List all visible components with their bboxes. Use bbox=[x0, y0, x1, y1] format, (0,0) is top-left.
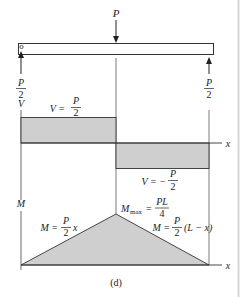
negative-shear-region bbox=[116, 143, 209, 169]
svg-text:P: P bbox=[173, 215, 180, 226]
point-load: P bbox=[112, 7, 120, 43]
svg-text:P: P bbox=[62, 215, 69, 226]
max-moment-label: M max = PL 4 bbox=[120, 196, 169, 219]
right-reaction: P 2 bbox=[204, 57, 214, 100]
moment-axis-label: M bbox=[16, 198, 26, 209]
svg-text:x: x bbox=[225, 260, 231, 271]
svg-text:M =: M = bbox=[151, 222, 170, 233]
load-label: P bbox=[112, 7, 120, 19]
beam bbox=[19, 44, 214, 55]
svg-text:P: P bbox=[169, 168, 176, 179]
svg-text:P: P bbox=[205, 77, 212, 88]
svg-text:2: 2 bbox=[74, 107, 79, 118]
down-arrow-icon bbox=[113, 36, 119, 43]
up-arrow-icon bbox=[206, 57, 212, 64]
beam-diagram: P P 2 P 2 V x V = P 2 bbox=[0, 0, 244, 297]
positive-shear-label: V = P 2 bbox=[50, 95, 81, 118]
svg-text:4: 4 bbox=[160, 208, 165, 219]
svg-text:M: M bbox=[120, 203, 130, 214]
svg-text:2: 2 bbox=[171, 181, 176, 192]
negative-shear-label: V = − P 2 bbox=[142, 168, 178, 192]
left-moment-label: M = P 2 x bbox=[39, 215, 78, 238]
shear-diagram: V x V = P 2 V = − P 2 bbox=[18, 95, 231, 200]
pin-support-icon bbox=[20, 45, 23, 48]
svg-text:x: x bbox=[72, 222, 78, 233]
svg-text:P: P bbox=[72, 95, 79, 106]
svg-text:M =: M = bbox=[39, 222, 58, 233]
svg-text:=: = bbox=[146, 203, 152, 214]
shear-axis-label: V bbox=[18, 98, 26, 109]
svg-text:max: max bbox=[130, 208, 143, 216]
left-reaction: P 2 bbox=[16, 51, 26, 100]
svg-text:P: P bbox=[17, 77, 24, 88]
svg-text:x: x bbox=[225, 138, 231, 149]
figure-caption: (d) bbox=[110, 277, 122, 289]
svg-text:V = −: V = − bbox=[142, 176, 166, 187]
svg-text:V =: V = bbox=[50, 103, 65, 114]
svg-text:(L − x): (L − x) bbox=[184, 222, 213, 234]
svg-text:PL: PL bbox=[155, 196, 168, 207]
moment-diagram: M x M max = PL 4 M = P 2 x M = P 2 (L − bbox=[16, 196, 231, 271]
positive-shear-region bbox=[21, 118, 116, 144]
svg-text:2: 2 bbox=[64, 227, 69, 238]
svg-text:2: 2 bbox=[175, 227, 180, 238]
svg-text:2: 2 bbox=[207, 89, 212, 100]
